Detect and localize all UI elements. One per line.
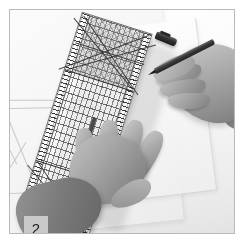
figure-container: 2 (0, 0, 244, 243)
instructional-photograph: 2 (10, 10, 234, 233)
photo-frame: 2 (9, 9, 235, 234)
step-number-badge: 2 (24, 216, 48, 233)
right-hand-holding-pencil (134, 32, 234, 142)
construction-line (10, 47, 17, 164)
